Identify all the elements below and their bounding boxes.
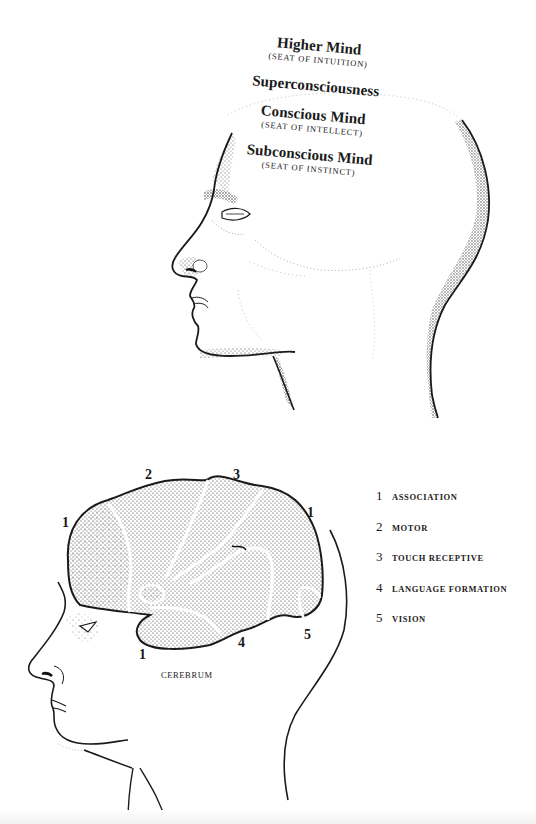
- region-marker-bottom-middle: 4: [238, 636, 245, 650]
- legend-number: 4: [376, 580, 392, 596]
- cerebrum-caption: Cerebrum: [161, 670, 213, 680]
- legend-item-vision: 5 Vision: [376, 610, 507, 641]
- legend-label: Association: [392, 492, 458, 502]
- legend-number: 5: [376, 610, 392, 626]
- legend-label: Motor: [392, 523, 428, 533]
- region-marker-bottom-front: 1: [139, 648, 146, 662]
- legend-label: Language Formation: [392, 584, 507, 594]
- region-marker-top-back: 3: [233, 468, 240, 482]
- legend-item-language-formation: 4 Language Formation: [376, 580, 507, 611]
- brain-diagram-illustration: [0, 0, 536, 824]
- legend-number: 1: [376, 488, 392, 504]
- legend-item-association: 1 Association: [376, 488, 507, 519]
- legend-item-motor: 2 Motor: [376, 519, 507, 550]
- region-marker-back-top: 1: [307, 506, 314, 520]
- legend-number: 3: [376, 549, 392, 565]
- legend-label: Touch Receptive: [392, 553, 484, 563]
- region-marker-front: 1: [62, 516, 69, 530]
- region-marker-top-front: 2: [145, 468, 152, 482]
- brain-region-legend: 1 Association 2 Motor 3 Touch Receptive …: [376, 488, 507, 641]
- region-marker-back-bottom: 5: [304, 628, 311, 642]
- legend-number: 2: [376, 519, 392, 535]
- scan-edge: [0, 810, 536, 824]
- legend-item-touch-receptive: 3 Touch Receptive: [376, 549, 507, 580]
- legend-label: Vision: [392, 614, 426, 624]
